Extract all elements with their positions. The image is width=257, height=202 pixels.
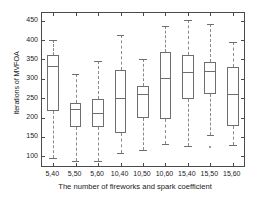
x-tick-mark — [98, 163, 99, 166]
whisker-upper — [121, 35, 122, 69]
box — [70, 103, 82, 127]
whisker-cap-upper — [139, 59, 147, 60]
whisker-cap-upper — [94, 61, 102, 62]
y-tick-mark — [42, 79, 45, 80]
whisker-lower — [188, 99, 189, 146]
median-line — [70, 109, 82, 110]
x-tick-mark — [188, 163, 189, 166]
y-tick-label: 250 — [16, 94, 38, 101]
x-tick-label: 15,60 — [212, 170, 252, 178]
x-tick-mark — [143, 163, 144, 166]
x-tick-mark — [53, 13, 54, 16]
box — [137, 86, 149, 118]
x-tick-mark — [143, 13, 144, 16]
box — [160, 52, 172, 119]
x-tick-mark — [233, 163, 234, 166]
whisker-cap-lower — [72, 161, 80, 162]
x-tick-mark — [165, 13, 166, 16]
whisker-lower — [98, 127, 99, 161]
whisker-cap-lower — [229, 145, 237, 146]
y-tick-mark — [42, 118, 45, 119]
y-tick-mark — [42, 40, 45, 41]
x-tick-mark — [121, 163, 122, 166]
whisker-lower — [53, 111, 54, 158]
whisker-lower — [121, 133, 122, 152]
median-line — [160, 78, 172, 79]
y-tick-mark — [241, 118, 244, 119]
whisker-upper — [165, 26, 166, 52]
y-tick-mark — [42, 21, 45, 22]
whisker-lower — [143, 118, 144, 150]
x-tick-mark — [53, 163, 54, 166]
whisker-cap-upper — [162, 26, 170, 27]
box — [204, 62, 216, 94]
whisker-lower — [210, 94, 211, 135]
whisker-cap-upper — [229, 42, 237, 43]
median-line — [204, 71, 216, 72]
y-tick-mark — [241, 156, 244, 157]
y-tick-label: 300 — [16, 74, 38, 81]
y-tick-mark — [241, 21, 244, 22]
y-tick-label: 350 — [16, 55, 38, 62]
plot-area — [41, 12, 245, 167]
whisker-cap-upper — [184, 20, 192, 21]
y-tick-mark — [42, 59, 45, 60]
box — [115, 70, 127, 134]
whisker-cap-lower — [117, 153, 125, 154]
box — [47, 55, 59, 111]
median-line — [47, 66, 59, 67]
box — [182, 55, 194, 98]
whisker-lower — [233, 126, 234, 146]
whisker-cap-lower — [94, 161, 102, 162]
whisker-upper — [233, 42, 234, 67]
whisker-cap-lower — [139, 150, 147, 151]
median-line — [182, 72, 194, 73]
whisker-upper — [98, 61, 99, 99]
boxplot-figure: Iterations of MVFOA 10015020025030035040… — [0, 0, 257, 202]
whisker-cap-upper — [49, 40, 57, 41]
y-tick-label: 400 — [16, 36, 38, 43]
whisker-upper — [143, 59, 144, 85]
whisker-upper — [210, 24, 211, 62]
whisker-cap-upper — [117, 35, 125, 36]
y-tick-mark — [241, 79, 244, 80]
whisker-cap-upper — [207, 24, 215, 25]
y-tick-mark — [42, 98, 45, 99]
box — [227, 67, 239, 126]
x-tick-mark — [188, 13, 189, 16]
whisker-upper — [76, 74, 77, 103]
y-tick-mark — [241, 59, 244, 60]
y-tick-mark — [42, 137, 45, 138]
plot-inner — [42, 13, 244, 166]
whisker-cap-lower — [184, 146, 192, 147]
y-tick-label: 200 — [16, 113, 38, 120]
x-tick-mark — [76, 13, 77, 16]
whisker-cap-lower — [49, 158, 57, 159]
y-tick-mark — [241, 40, 244, 41]
x-tick-mark — [76, 163, 77, 166]
x-axis-title: The number of fireworks and spark coeffi… — [20, 182, 250, 192]
median-line — [137, 94, 149, 95]
whisker-cap-lower — [162, 144, 170, 145]
median-line — [115, 98, 127, 99]
median-line — [92, 113, 104, 114]
y-tick-mark — [241, 137, 244, 138]
outlier-point — [209, 146, 211, 148]
x-tick-mark — [210, 163, 211, 166]
y-tick-label: 150 — [16, 132, 38, 139]
x-tick-mark — [233, 13, 234, 16]
whisker-upper — [188, 20, 189, 56]
x-tick-mark — [98, 13, 99, 16]
whisker-lower — [165, 119, 166, 144]
y-tick-label: 450 — [16, 16, 38, 23]
whisker-cap-upper — [72, 74, 80, 75]
x-tick-mark — [210, 13, 211, 16]
y-tick-mark — [241, 98, 244, 99]
y-tick-label: 100 — [16, 152, 38, 159]
whisker-upper — [53, 40, 54, 55]
y-tick-mark — [42, 156, 45, 157]
x-tick-mark — [121, 13, 122, 16]
whisker-cap-lower — [207, 135, 215, 136]
whisker-lower — [76, 127, 77, 161]
x-tick-mark — [165, 163, 166, 166]
